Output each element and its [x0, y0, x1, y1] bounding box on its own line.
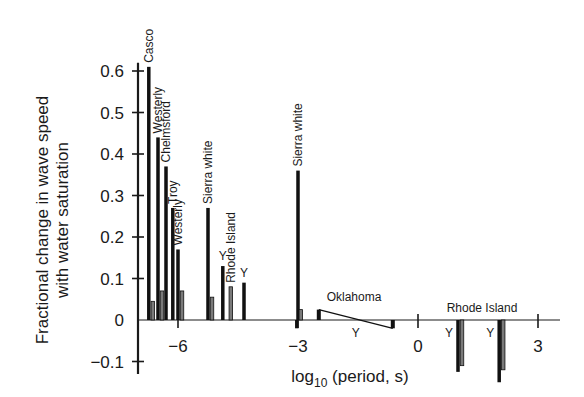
oklahoma-ramp: Y: [317, 310, 395, 340]
y-tick-label: −0.1: [90, 353, 124, 372]
bar: [242, 283, 246, 320]
ramp-y-label: Y: [352, 326, 360, 340]
bar-label: Y: [486, 326, 494, 340]
y-tick-label: 0.2: [100, 228, 124, 247]
bar: [160, 291, 164, 320]
bar-label: Rhode Island: [224, 212, 238, 283]
y-tick-label: 0.6: [100, 62, 124, 81]
bar-label: Sierra white: [201, 140, 215, 204]
bar-label: Westerly: [171, 199, 185, 245]
x-axis-label-sub: 10: [314, 376, 328, 390]
bar-label: Y: [240, 266, 248, 280]
bar: [206, 208, 210, 320]
y-axis-label: Fractional change in wave speed with wat…: [33, 96, 72, 345]
x-tick-label: 3: [533, 337, 542, 356]
y-axis-label-line1: Fractional change in wave speed: [33, 96, 52, 345]
bar: [176, 249, 180, 320]
bar-label: Casco: [142, 29, 156, 63]
bar: [295, 320, 299, 328]
bar-label: Chelmsford: [159, 101, 173, 162]
chart: Fractional change in wave speed with wat…: [0, 0, 584, 397]
x-tick-label: 0: [413, 337, 422, 356]
bar: [456, 320, 460, 372]
y-axis-label-line2: with water saturation: [53, 142, 72, 299]
y-tick-label: 0.4: [100, 145, 124, 164]
y-tick-label: 0.1: [100, 270, 124, 289]
bar: [156, 137, 160, 320]
y-axis-ticks: 0.60.50.40.30.20.10−0.1: [90, 62, 144, 372]
bar-label: Y: [445, 326, 453, 340]
y-tick-label: 0.3: [100, 187, 124, 206]
annotations: CascoWesterlyChelmsfordTroyWesterlySierr…: [142, 29, 518, 340]
y-tick-label: 0: [115, 311, 124, 330]
bar: [151, 301, 155, 320]
ramp-end-bar: [391, 320, 395, 328]
bar: [460, 320, 464, 366]
bar: [210, 297, 214, 320]
axes: [138, 63, 560, 374]
bar: [501, 320, 505, 370]
x-axis-label-main: log: [291, 367, 314, 386]
x-axis-label: log10 (period, s): [291, 367, 408, 390]
y-tick-label: 0.5: [100, 104, 124, 123]
bar: [296, 171, 300, 320]
bar: [229, 287, 233, 320]
group-label: Oklahoma: [327, 290, 382, 304]
group-label: Rhode Island: [447, 301, 518, 315]
x-axis-label-rest: (period, s): [327, 367, 408, 386]
x-tick-label: −3: [288, 337, 307, 356]
bar: [299, 310, 303, 320]
x-tick-label: −6: [168, 337, 187, 356]
bar: [497, 320, 501, 382]
bar: [180, 291, 184, 320]
bar-label: Sierra white: [291, 103, 305, 167]
ramp-start-bar: [317, 310, 321, 320]
